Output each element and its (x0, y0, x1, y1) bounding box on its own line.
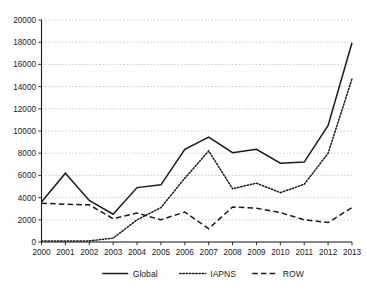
legend-label-iapns: IAPNS (210, 269, 236, 279)
y-tick-label-6000: 6000 (18, 171, 37, 180)
x-axis-ticks: 2000200120022003200420052006200720082009… (32, 242, 361, 257)
legend-label-row: ROW (283, 269, 305, 279)
y-tick-label-2000: 2000 (18, 216, 37, 225)
x-tick-label-2003: 2003 (104, 248, 123, 257)
x-tick-label-2011: 2011 (295, 248, 313, 257)
x-tick-label-2010: 2010 (271, 248, 290, 257)
y-axis-ticks: 0200040006000800010000120001400016000180… (13, 16, 41, 247)
y-tick-label-4000: 4000 (18, 194, 37, 203)
x-tick-label-2005: 2005 (152, 248, 171, 257)
series-line-global (42, 43, 353, 215)
x-tick-label-2009: 2009 (247, 248, 266, 257)
y-tick-label-20000: 20000 (13, 16, 36, 25)
y-tick-label-12000: 12000 (13, 105, 36, 114)
chart-canvas: 0200040006000800010000120001400016000180… (0, 0, 366, 290)
x-tick-label-2001: 2001 (56, 248, 75, 257)
line-chart: 0200040006000800010000120001400016000180… (0, 0, 366, 290)
y-tick-label-18000: 18000 (13, 38, 36, 47)
y-tick-label-0: 0 (31, 238, 36, 247)
y-tick-label-10000: 10000 (13, 127, 36, 136)
gridlines (42, 20, 353, 242)
x-tick-label-2004: 2004 (128, 248, 147, 257)
x-tick-label-2012: 2012 (319, 248, 338, 257)
y-tick-label-14000: 14000 (13, 83, 36, 92)
chart-legend: GlobalIAPNSROW (102, 269, 304, 279)
x-tick-label-2013: 2013 (343, 248, 362, 257)
data-series (42, 43, 353, 241)
legend-label-global: Global (133, 269, 158, 279)
x-tick-label-2002: 2002 (80, 248, 99, 257)
y-tick-label-16000: 16000 (13, 60, 36, 69)
x-tick-label-2008: 2008 (223, 248, 242, 257)
series-line-row (42, 203, 353, 229)
x-tick-label-2000: 2000 (32, 248, 51, 257)
x-tick-label-2007: 2007 (200, 248, 219, 257)
x-tick-label-2006: 2006 (176, 248, 195, 257)
y-tick-label-8000: 8000 (18, 149, 37, 158)
